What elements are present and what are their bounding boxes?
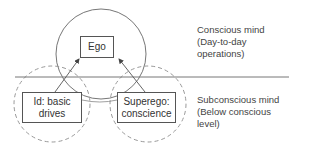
subconscious-mind-label: Subconscious mind (Below conscious level… — [197, 94, 279, 130]
conscious-mind-label: Conscious mind (Day-to-day operations) — [197, 24, 265, 60]
conscious-line1: Conscious mind — [197, 24, 265, 36]
superego-box: Superego: conscience — [117, 92, 176, 123]
conscious-line2: (Day-to-day — [197, 36, 265, 48]
superego-label-line1: Superego: — [123, 96, 169, 108]
id-box: Id: basic drives — [22, 92, 82, 123]
superego-label-line2: conscience — [121, 108, 171, 120]
subconscious-line3: level) — [197, 118, 279, 130]
id-label-line2: drives — [39, 108, 66, 120]
subconscious-line2: (Below conscious — [197, 106, 279, 118]
conscious-line3: operations) — [197, 48, 265, 60]
ego-box: Ego — [80, 36, 114, 58]
subconscious-line1: Subconscious mind — [197, 94, 279, 106]
ego-label: Ego — [88, 41, 106, 53]
id-label-line1: Id: basic — [33, 96, 70, 108]
id-superego-curve — [82, 100, 117, 102]
id-to-ego-arrow — [55, 59, 79, 92]
